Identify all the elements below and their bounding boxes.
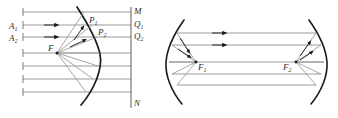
label-F1: F1 [197,62,207,73]
f2-fan-5 [296,62,316,85]
f1-fan-5 [177,62,196,85]
figure-container: A1 A2 P1 P2 F M Q1 Q2 N [0,0,338,118]
f1-fan-4 [172,62,196,74]
physics-diagram: A1 A2 P1 P2 F M Q1 Q2 N [0,0,338,118]
between-mirror-arrows [212,33,225,45]
label-Q1: Q1 [134,19,144,30]
label-P2: P2 [97,27,107,38]
reflected-ray-7 [57,53,86,92]
label-Q2: Q2 [134,31,144,42]
focus-point-F2 [295,61,298,64]
label-F: F [47,43,54,53]
focus-point-F [56,52,59,55]
left-focus-arrows [178,38,190,57]
left-focus-ray-fan [169,33,196,85]
label-P1: P1 [88,15,98,26]
right-focus-ray-fan [296,33,324,85]
label-A2: A2 [8,33,18,44]
right-panel-group: F1 F2 [166,20,327,104]
label-A1: A1 [8,21,18,32]
label-M: M [133,6,142,16]
f2-fan-2 [296,45,321,62]
left-panel-group: A1 A2 P1 P2 F M Q1 Q2 N [8,6,144,108]
label-F2: F2 [282,62,292,73]
f2-fan-4 [296,62,321,74]
reflected-ray-5 [57,53,98,66]
reflected-ray-3 [57,37,97,53]
label-N: N [133,98,141,108]
focus-point-F1 [195,61,198,64]
incoming-ray-arrows [44,25,57,37]
